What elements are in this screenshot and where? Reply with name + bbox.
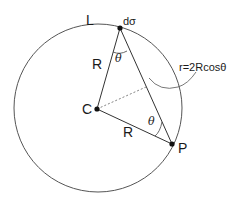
label-l: L xyxy=(86,12,94,28)
label-formula: r=2Rcosθ xyxy=(179,61,226,73)
label-theta-upper: θ xyxy=(115,52,122,65)
angle-arc-bottom xyxy=(155,122,162,136)
label-p: P xyxy=(178,140,187,156)
label-r-upper: R xyxy=(92,56,102,72)
point-dsigma xyxy=(117,25,122,30)
formula-leader xyxy=(149,72,196,88)
label-c: C xyxy=(82,101,92,117)
dashed-perpendicular xyxy=(97,87,146,109)
label-theta-lower: θ xyxy=(148,115,155,128)
geometry-diagram: L dσ R θ r=2Rcosθ C θ R P xyxy=(0,0,239,198)
point-c xyxy=(94,106,99,111)
label-dsigma: dσ xyxy=(123,15,136,27)
label-r-lower: R xyxy=(123,124,133,140)
point-p xyxy=(169,141,174,146)
